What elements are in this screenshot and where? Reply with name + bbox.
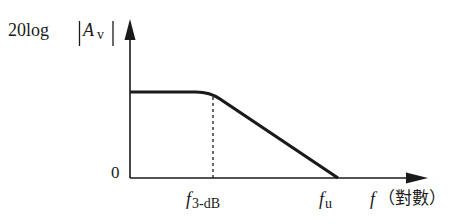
y-axis-label-prefix: 20log: [8, 20, 49, 40]
x-axis-label-var: f: [370, 189, 378, 209]
gain-curve: [130, 92, 338, 178]
x-axis-arrowhead-icon: [406, 173, 428, 184]
y-axis-label: 20log: [8, 20, 49, 40]
tick-f3db-sub: 3-dB: [192, 196, 220, 211]
y-axis-label-var: A: [82, 20, 95, 40]
y-axis-arrowhead-icon: [125, 19, 136, 40]
bode-plot: 20log A v 0 f 3-dB f u f （對數）: [0, 0, 474, 224]
x-axis-label-unit: （對數）: [378, 189, 446, 208]
y-axis-label-sub: v: [97, 27, 104, 42]
tick-fu-sub: u: [325, 196, 332, 211]
zero-label: 0: [111, 163, 120, 182]
